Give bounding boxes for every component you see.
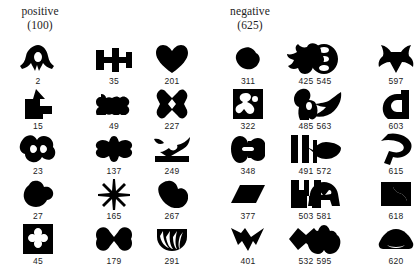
stimulus-cell[interactable]: 23: [8, 132, 68, 177]
stimulus-cell[interactable]: 35: [84, 42, 144, 87]
stimulus-cell[interactable]: 201: [142, 42, 202, 87]
rounded-spiral-blob-icon: [142, 177, 202, 211]
square-clover-cutout-icon: [8, 222, 68, 256]
stimulus-label: 620: [366, 257, 420, 266]
leaf-blob-icon: [294, 132, 354, 166]
stimulus-cell[interactable]: 137: [84, 132, 144, 177]
stimulus-cell[interactable]: 563: [294, 87, 354, 132]
stimulus-cell[interactable]: 45: [8, 222, 68, 267]
stimulus-cell[interactable]: 595: [294, 222, 354, 267]
animal-silhouette-blob-icon: [366, 177, 420, 211]
bone-dumbbell-blob-icon: [84, 87, 144, 121]
stimulus-cell[interactable]: 311: [218, 42, 278, 87]
stimulus-label: 311: [218, 77, 278, 86]
square-x-cutout-blob-icon: [142, 87, 202, 121]
up-arrow-step-blob-icon: [8, 87, 68, 121]
stimulus-cell[interactable]: 165: [84, 177, 144, 222]
stimulus-cell[interactable]: 322: [218, 87, 278, 132]
slanted-bar-blob-icon: [218, 177, 278, 211]
stimulus-cell[interactable]: 348: [218, 132, 278, 177]
stimulus-label: 348: [218, 167, 278, 176]
stimulus-label: 603: [366, 122, 420, 131]
stimulus-label: 267: [142, 212, 202, 221]
arrowhead-crest-blob-icon: [8, 42, 68, 76]
wing-hook-blob-icon: [294, 87, 354, 121]
stimulus-cell[interactable]: 291: [142, 222, 202, 267]
plus-winged-blob-icon: [84, 132, 144, 166]
stimulus-cell[interactable]: 603: [366, 87, 420, 132]
stimulus-cell[interactable]: 49: [84, 87, 144, 132]
stimulus-label: 545: [294, 77, 354, 86]
stimulus-row: 23137249348491572615: [0, 132, 420, 177]
stimulus-label: 595: [294, 257, 354, 266]
stimulus-label: 15: [8, 122, 68, 131]
heading-negative-word: negative: [160, 4, 340, 18]
stimulus-row: 235201311425545597: [0, 42, 420, 87]
barbell-cross-blob-icon: [84, 42, 144, 76]
stimulus-row: 27165267377503581618: [0, 177, 420, 222]
mask-eyes-blob-icon: [294, 177, 354, 211]
p-loop-blob-icon: [366, 132, 420, 166]
stimulus-cell[interactable]: 618: [366, 177, 420, 222]
stimulus-label: 23: [8, 167, 68, 176]
bowtie-butterfly-blob-icon: [84, 222, 144, 256]
four-point-star-blob-icon: [366, 42, 420, 76]
stimulus-cell[interactable]: 15: [8, 87, 68, 132]
stimulus-label: 597: [366, 77, 420, 86]
heading-positive-word: positive: [0, 4, 80, 18]
square-holes-blob-icon: [218, 87, 278, 121]
stimulus-cell[interactable]: 401: [218, 222, 278, 267]
stimulus-label: 291: [142, 257, 202, 266]
stimulus-cell[interactable]: 572: [294, 132, 354, 177]
stimulus-label: 45: [8, 257, 68, 266]
stimulus-label: 322: [218, 122, 278, 131]
stimulus-cell[interactable]: 27: [8, 177, 68, 222]
stimulus-label: 165: [84, 212, 144, 221]
stimulus-cell[interactable]: 179: [84, 222, 144, 267]
heading-positive-count: (100): [0, 18, 80, 32]
stimulus-cell[interactable]: 615: [366, 132, 420, 177]
stimulus-label: 618: [366, 212, 420, 221]
stimulus-label: 179: [84, 257, 144, 266]
mushroom-lump-blob-icon: [8, 177, 68, 211]
dome-mound-blob-icon: [366, 222, 420, 256]
zigzag-ribbon-blob-icon: [218, 222, 278, 256]
stimulus-grid: 2352013114255455971549227322485563603231…: [0, 42, 420, 273]
stimulus-label: 35: [84, 77, 144, 86]
stimulus-label: 249: [142, 167, 202, 176]
column-heading-negative: negative (625): [160, 4, 340, 32]
stimulus-label: 572: [294, 167, 354, 176]
stimulus-cell[interactable]: 249: [142, 132, 202, 177]
stimulus-row: 1549227322485563603: [0, 87, 420, 132]
stimulus-row: 45179291401532595620: [0, 222, 420, 267]
stimulus-label: 49: [84, 122, 144, 131]
stimulus-label: 137: [84, 167, 144, 176]
stimulus-cell[interactable]: 267: [142, 177, 202, 222]
c-bracket-blob-icon: [366, 87, 420, 121]
stimulus-label: 227: [142, 122, 202, 131]
stimulus-label: 401: [218, 257, 278, 266]
stimulus-label: 581: [294, 212, 354, 221]
split-kidney-blob-icon: [218, 132, 278, 166]
heading-negative-count: (625): [160, 18, 340, 32]
stimulus-cell[interactable]: 597: [366, 42, 420, 87]
stimulus-label: 377: [218, 212, 278, 221]
stimulus-cell[interactable]: 2: [8, 42, 68, 87]
stimulus-cell[interactable]: 227: [142, 87, 202, 132]
stimulus-cell[interactable]: 581: [294, 177, 354, 222]
stimulus-label: 201: [142, 77, 202, 86]
stimulus-label: 2: [8, 77, 68, 86]
column-heading-positive: positive (100): [0, 4, 80, 32]
lungs-tree-blob-icon: [294, 222, 354, 256]
stimulus-label: 615: [366, 167, 420, 176]
heart-blob-icon: [142, 42, 202, 76]
stimulus-label: 563: [294, 122, 354, 131]
shell-fan-blob-icon: [142, 222, 202, 256]
figure-eight-ring-blob-icon: [294, 42, 354, 76]
stimulus-cell[interactable]: 545: [294, 42, 354, 87]
small-lumpy-blob-icon: [218, 42, 278, 76]
stimulus-cell[interactable]: 377: [218, 177, 278, 222]
stimulus-label: 27: [8, 212, 68, 221]
double-lobe-rough-blob-icon: [8, 132, 68, 166]
stimulus-cell[interactable]: 620: [366, 222, 420, 267]
